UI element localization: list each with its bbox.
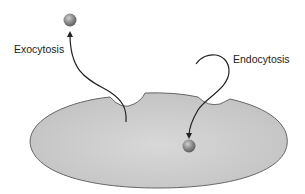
cell-membrane	[30, 93, 287, 188]
internalized-vesicle-icon	[183, 140, 196, 153]
endocytosis-label: Endocytosis	[233, 53, 290, 65]
diagram-canvas: Exocytosis Endocytosis	[0, 0, 305, 194]
cell-body	[30, 93, 287, 188]
exocytosis-label: Exocytosis	[14, 43, 64, 55]
released-vesicle-icon	[64, 14, 77, 27]
